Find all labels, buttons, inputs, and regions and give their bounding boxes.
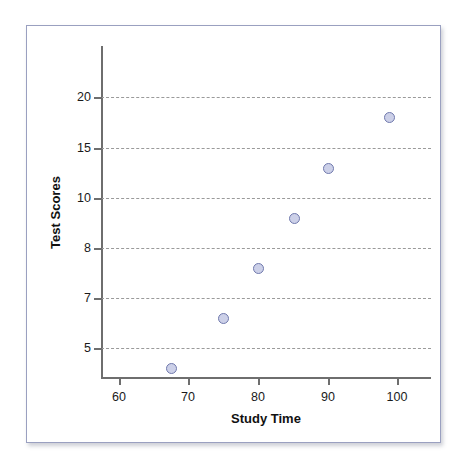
x-tick-label-100: 100 xyxy=(387,390,408,404)
data-point xyxy=(323,163,334,174)
y-tick-7 xyxy=(94,298,102,300)
y-tick-label-15: 15 xyxy=(77,141,91,155)
gridline-15 xyxy=(101,148,431,149)
data-point xyxy=(253,263,264,274)
chart-card: Test Scores 20 15 10 8 7 5 60 70 80 90 xyxy=(26,25,441,443)
gridline-10 xyxy=(101,198,431,199)
y-tick-label-7: 7 xyxy=(84,291,91,305)
data-point xyxy=(384,112,395,123)
x-tick-60 xyxy=(119,377,121,385)
y-tick-20 xyxy=(94,97,102,99)
x-tick-90 xyxy=(328,377,330,385)
y-tick-label-10: 10 xyxy=(77,191,91,205)
x-tick-80 xyxy=(258,377,260,385)
y-tick-15 xyxy=(94,148,102,150)
x-axis-title: Study Time xyxy=(101,411,431,426)
y-tick-10 xyxy=(94,198,102,200)
gridline-8 xyxy=(101,248,431,249)
gridline-7 xyxy=(101,298,431,299)
data-point xyxy=(166,363,177,374)
y-axis-title-label: Test Scores xyxy=(48,176,63,249)
y-tick-8 xyxy=(94,248,102,250)
x-tick-label-80: 80 xyxy=(251,390,265,404)
gridline-20 xyxy=(101,97,431,98)
plot-area: 20 15 10 8 7 5 60 70 80 90 100 xyxy=(101,46,431,379)
x-tick-label-70: 70 xyxy=(181,390,195,404)
x-tick-100 xyxy=(397,377,399,385)
x-axis-line xyxy=(101,377,431,379)
data-point xyxy=(218,313,229,324)
x-tick-label-90: 90 xyxy=(321,390,335,404)
x-tick-label-60: 60 xyxy=(112,390,126,404)
gridline-5 xyxy=(101,348,431,349)
y-tick-label-20: 20 xyxy=(77,90,91,104)
y-axis-line xyxy=(101,46,103,379)
y-tick-label-8: 8 xyxy=(84,241,91,255)
y-axis-title: Test Scores xyxy=(47,46,63,379)
y-tick-label-5: 5 xyxy=(84,341,91,355)
data-point xyxy=(289,213,300,224)
x-tick-70 xyxy=(188,377,190,385)
y-tick-5 xyxy=(94,348,102,350)
